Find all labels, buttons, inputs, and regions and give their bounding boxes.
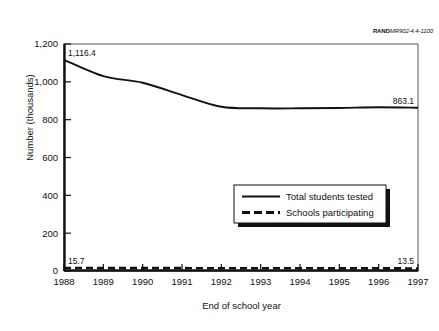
- data-point-label: 13.5: [397, 256, 414, 266]
- x-tick-label: 1997: [407, 276, 428, 287]
- data-point-label: 15.7: [68, 256, 85, 266]
- y-tick-label: 1,000: [34, 76, 58, 87]
- x-tick-label: 1989: [93, 276, 114, 287]
- x-tick-label: 1995: [329, 276, 350, 287]
- x-tick-label: 1990: [132, 276, 153, 287]
- y-tick-label: 0: [53, 265, 58, 276]
- y-tick-label: 800: [42, 114, 58, 125]
- y-tick-label: 1,200: [34, 38, 58, 49]
- line-chart-plot: 02004006008001,0001,200 1988198919901991…: [0, 0, 439, 331]
- chart-legend: Total students tested Schools participat…: [234, 185, 390, 227]
- y-tick-label: 600: [42, 152, 58, 163]
- x-tick-label: 1993: [250, 276, 271, 287]
- y-tick-label: 400: [42, 190, 58, 201]
- y-tick-label: 200: [42, 228, 58, 239]
- legend-label-schools-participating: Schools participating: [286, 207, 374, 218]
- x-tick-label: 1994: [289, 276, 310, 287]
- legend-label-total-students-tested: Total students tested: [286, 191, 373, 202]
- data-point-label: 1,116.4: [68, 48, 96, 58]
- x-tick-label: 1996: [368, 276, 389, 287]
- data-point-labels: 1,116.4863.115.713.5: [68, 48, 414, 267]
- x-tick-label: 1991: [171, 276, 192, 287]
- series-line-total-students-tested: [64, 60, 418, 109]
- x-tick-label: 1992: [211, 276, 232, 287]
- data-point-label: 863.1: [393, 96, 415, 106]
- x-tick-label: 1988: [53, 276, 74, 287]
- figure-container: RANDMR902-4.4-1100 Number (thousands) En…: [0, 0, 439, 331]
